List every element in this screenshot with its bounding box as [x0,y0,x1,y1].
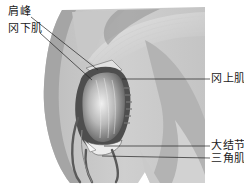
label-supraspinatus: 冈上肌 [211,73,244,85]
humeral-head [82,72,125,142]
label-acromion: 肩峰 [8,6,31,18]
label-infraspinatus: 冈下肌 [8,23,43,35]
label-deltoid: 三角肌 [211,153,244,165]
shoulder-anatomy-figure: 肩峰 冈下肌 冈上肌 大结节 三角肌 [0,0,244,190]
label-greater-tuberosity: 大结节 [211,140,244,152]
